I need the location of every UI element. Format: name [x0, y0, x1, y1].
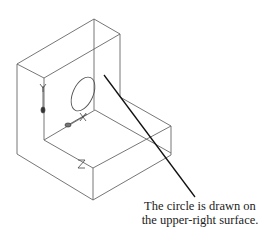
ucs-icon — [40, 84, 87, 168]
circle-on-surface — [66, 73, 99, 114]
solid-wireframe — [17, 19, 171, 200]
caption-line-1: The circle is drawn on — [138, 199, 262, 213]
base-left-bottom — [17, 154, 93, 200]
y-axis-label-glyph — [40, 84, 46, 92]
caption: The circle is drawn on the upper-right s… — [138, 199, 262, 227]
caption-line-2: the upper-right surface. — [138, 213, 262, 227]
y-axis-marker — [41, 107, 45, 113]
x-axis-marker — [65, 123, 71, 127]
leader-line — [104, 75, 195, 197]
x-axis-label-glyph — [80, 113, 86, 121]
base-upright-right-top — [120, 97, 171, 126]
base-inner-left — [44, 140, 93, 168]
upright-top-face — [17, 19, 120, 78]
